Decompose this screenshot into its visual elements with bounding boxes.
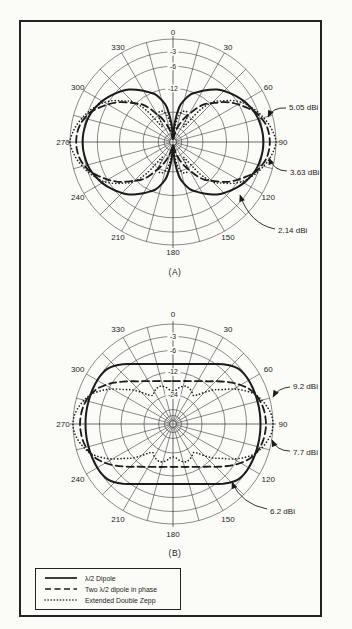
angle-label: 240 [71, 475, 85, 484]
angle-label: 120 [262, 193, 276, 202]
polar-grid-spoke [175, 337, 224, 421]
angle-label: 180 [166, 530, 180, 539]
dashed-line-sample-icon [43, 585, 79, 593]
polar-grid-spoke [147, 427, 172, 521]
gain-callout-label: 2.14 dBi [278, 226, 308, 235]
polar-grid-spoke [100, 69, 171, 140]
panel-label-b: (B) [145, 548, 205, 558]
gain-callout-label: 6.2 dBi [270, 507, 295, 516]
dotted-line-sample-icon [43, 596, 79, 604]
polar-chart-a: -3-6-1203060901201501802102402703003305.… [56, 28, 319, 257]
angle-label: 90 [279, 420, 288, 429]
gain-callout-label: 3.63 dBi [290, 168, 320, 177]
gain-callout-arrow [272, 440, 290, 451]
angle-label: 180 [166, 248, 180, 257]
polar-chart-b: -3-6-12-24030609012015018021024027030033… [56, 310, 318, 539]
angle-label: 60 [264, 83, 273, 92]
angle-label: 150 [221, 515, 235, 524]
polar-grid-spoke [100, 144, 171, 215]
polar-grid-spoke [174, 427, 199, 521]
solid-line-sample-icon [43, 574, 79, 582]
ring-db-label: -12 [168, 368, 178, 375]
angle-label: 0 [171, 28, 176, 37]
polar-grid-spoke [175, 144, 246, 215]
gain-callout-arrow [232, 482, 267, 509]
polar-grid-spoke [76, 398, 170, 423]
polar-charts-canvas: -3-6-1203060901201501802102402703003305.… [0, 0, 352, 629]
ring-db-label: -3 [170, 48, 176, 55]
angle-label: 0 [171, 310, 176, 319]
angle-label: 120 [262, 475, 276, 484]
polar-grid-spoke [176, 425, 270, 450]
angle-label: 270 [56, 420, 70, 429]
ring-db-label: -6 [170, 347, 176, 354]
angle-label: 60 [264, 365, 273, 374]
gain-callout-label: 9.2 dBi [293, 382, 318, 391]
panel-label-a: (A) [145, 267, 205, 277]
polar-grid-spoke [123, 337, 172, 421]
ring-db-label: -6 [170, 63, 176, 70]
polar-grid-spoke [175, 427, 224, 511]
polar-grid-spoke [176, 398, 270, 423]
ring-db-label: -12 [168, 85, 178, 92]
gain-callout-arrow [269, 158, 287, 171]
gain-callout-arrow [273, 387, 290, 397]
legend-label: Extended Double Zepp [85, 597, 156, 604]
polar-grid-spoke [175, 69, 246, 140]
angle-label: 150 [221, 233, 235, 242]
angle-label: 330 [111, 325, 125, 334]
legend-label: λ/2 Dipole [85, 575, 116, 582]
angle-label: 240 [71, 193, 85, 202]
scanned-figure-page: -3-6-1203060901201501802102402703003305.… [0, 0, 352, 629]
gain-callout-label: 5.05 dBi [289, 103, 319, 112]
gain-callout-label: 7.7 dBi [293, 448, 318, 457]
angle-label: 300 [71, 365, 85, 374]
ring-db-label: -24 [168, 391, 178, 398]
angle-label: 90 [279, 138, 288, 147]
legend-item-extended-double-zepp: Extended Double Zepp [36, 596, 180, 604]
angle-label: 210 [111, 233, 125, 242]
polar-grid-spoke [76, 425, 170, 450]
angle-label: 30 [224, 325, 233, 334]
angle-label: 330 [111, 43, 125, 52]
legend-item-two-dipoles-in-phase: Two λ/2 dipole in phase [36, 585, 180, 593]
angle-label: 270 [56, 138, 70, 147]
angle-label: 210 [111, 515, 125, 524]
ring-db-label: -3 [170, 333, 176, 340]
legend-item-half-wave-dipole: λ/2 Dipole [36, 574, 180, 582]
angle-label: 300 [71, 83, 85, 92]
legend-label: Two λ/2 dipole in phase [85, 586, 157, 593]
polar-grid-spoke [123, 427, 172, 511]
legend: λ/2 Dipole Two λ/2 dipole in phase Exten… [35, 568, 181, 610]
angle-label: 30 [224, 43, 233, 52]
